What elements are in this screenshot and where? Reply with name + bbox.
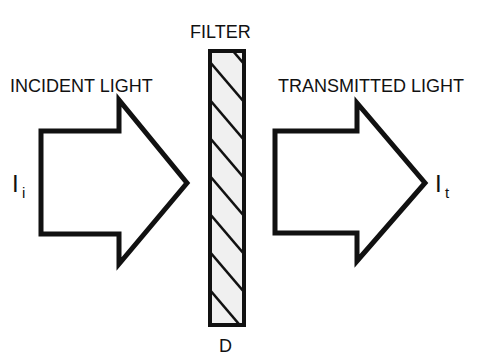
transmitted-light-label: TRANSMITTED LIGHT — [278, 76, 464, 96]
transmitted-intensity-symbol: I t — [435, 170, 450, 201]
svg-text:t: t — [445, 184, 450, 201]
incident-light-label: INCIDENT LIGHT — [10, 76, 153, 96]
svg-text:I: I — [12, 170, 19, 197]
light-filter-diagram: FILTER INCIDENT LIGHT TRANSMITTED LIGHT … — [0, 0, 494, 364]
filter-slab — [210, 24, 244, 330]
svg-text:i: i — [22, 184, 25, 201]
svg-text:I: I — [435, 170, 442, 197]
incident-arrow-icon — [41, 100, 187, 264]
transmitted-arrow-icon — [275, 103, 425, 261]
filter-label: FILTER — [190, 22, 251, 42]
filter-thickness-label: D — [219, 336, 232, 356]
incident-intensity-symbol: I i — [12, 170, 25, 201]
